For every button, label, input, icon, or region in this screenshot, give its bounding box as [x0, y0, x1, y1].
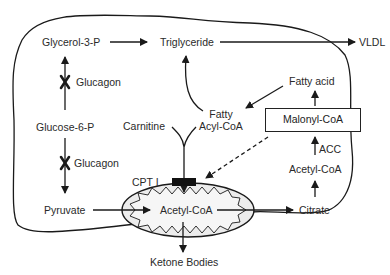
arrow-fattyacylcoa-to-triglyceride: [186, 56, 203, 111]
node-ketone-bodies: Ketone Bodies: [150, 256, 218, 268]
node-acetyl-coa-mitochondria: Acetyl-CoA: [160, 204, 213, 216]
node-fatty-acyl-coa-line2: Acyl-CoA: [195, 120, 247, 132]
node-malonyl-coa: Malonyl-CoA: [283, 113, 343, 125]
node-fatty-acyl-coa-line1: Fatty: [199, 108, 243, 120]
node-glycerol-3-p: Glycerol-3-P: [42, 36, 100, 48]
node-glucose-6-p: Glucose-6-P: [36, 121, 94, 133]
node-fatty-acid: Fatty acid: [289, 75, 335, 87]
arrow-fattyacid-to-fattyacylcoa: [246, 86, 283, 108]
label-glucagon-bottom: Glucagon: [74, 157, 119, 169]
node-carnitine: Carnitine: [123, 120, 165, 132]
node-triglyceride: Triglyceride: [160, 36, 214, 48]
cpt1-transporter-block: [172, 178, 196, 186]
label-cpt1: CPT I: [132, 176, 159, 188]
label-glucagon-top: Glucagon: [76, 76, 121, 88]
node-acetyl-coa-cytosol: Acetyl-CoA: [289, 163, 342, 175]
node-vldl: VLDL: [359, 36, 385, 48]
node-malonyl-coa-box: Malonyl-CoA: [265, 108, 361, 132]
node-citrate: Citrate: [299, 204, 330, 216]
node-pyruvate: Pyruvate: [44, 204, 85, 216]
dashed-arrow-malonylcoa-inhibits-cpt1: [206, 137, 268, 178]
label-acc-enzyme: ACC: [319, 143, 341, 155]
